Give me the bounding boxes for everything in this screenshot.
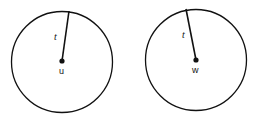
radius-line-w <box>186 9 196 60</box>
circle-w-group: t w <box>146 9 247 111</box>
center-point-w <box>193 57 198 62</box>
radius-label-u: t <box>54 31 57 42</box>
center-label-u: u <box>59 66 64 76</box>
circle-u-group: t u <box>12 11 113 113</box>
center-label-w: w <box>191 65 199 75</box>
radius-label-w: t <box>182 29 185 40</box>
radius-line-u <box>62 11 69 61</box>
center-point-u <box>59 58 64 63</box>
diagram-canvas: t u t w <box>0 0 260 121</box>
